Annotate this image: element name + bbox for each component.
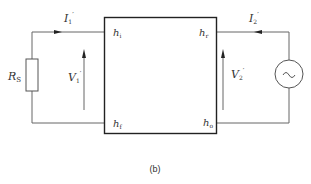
input-voltage-arrow-icon (82, 49, 86, 110)
input-current-arrow-icon (54, 30, 62, 34)
figure-caption: (b) (150, 164, 161, 174)
output-current-label: I2′ (248, 11, 259, 25)
output-current-arrow-icon (254, 30, 262, 34)
input-voltage-label: V1′ (68, 70, 82, 84)
source-resistor-label: RS (7, 70, 21, 84)
output-voltage-arrow-icon (221, 49, 225, 110)
ac-source (275, 60, 303, 88)
circuit-diagram: RS I1′ I2′ V1′ V2′ hi hr hf ho (b) (0, 0, 311, 184)
source-resistor (26, 59, 38, 91)
input-current-label: I1′ (63, 11, 74, 25)
output-voltage-label: V2′ (231, 67, 245, 81)
